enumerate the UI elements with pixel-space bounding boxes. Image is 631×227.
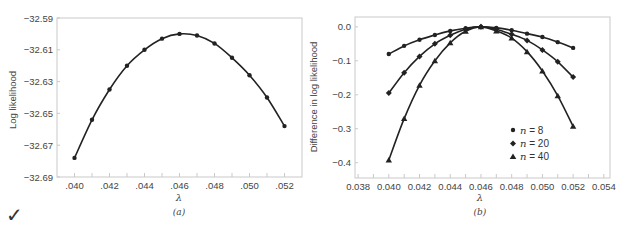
x-tick-label: 0.040 [377,181,401,192]
y-tick-label: −0.4 [332,157,351,168]
data-point [556,40,560,44]
x-axis-label-b: λ [476,192,483,203]
y-tick-label: −0.2 [332,89,351,100]
data-point [107,87,111,91]
data-point [282,124,286,128]
x-tick-label: 0.048 [500,181,524,192]
data-point [417,38,421,42]
x-tick-label: .046 [170,180,189,191]
x-axis-label-a: λ [175,192,182,203]
x-tick-label: .044 [135,180,154,191]
x-tick-label: 0.044 [438,181,462,192]
plot-frame-b [355,17,610,178]
y-tick-label: −32.59 [24,13,53,24]
legend: n = 8 n = 20 n = 40 [510,125,550,162]
data-point [571,46,575,50]
data-point [142,48,146,52]
y-tick-label: −32.61 [24,44,53,55]
data-point [525,31,529,35]
data-point [386,157,392,163]
data-point [416,82,422,88]
data-point [72,156,76,160]
legend-label: = 8 [526,125,543,136]
y-axis-label-b: Difference in log likelihood [308,42,319,153]
x-tick-label: 0.038 [346,181,370,192]
x-tick-label: .048 [205,180,224,191]
x-tick-label: .042 [100,180,119,191]
legend-label: = 40 [526,151,549,162]
series-n-20 [386,24,576,96]
svg-text:n = 20: n = 20 [520,138,549,149]
data-point [570,123,576,129]
legend-item-n20: n = 20 [510,138,549,149]
diamond-marker-icon [510,141,516,147]
checkmark-icon: ✓ [6,203,23,227]
x-tick-label: .050 [240,180,259,191]
svg-text:n = 8: n = 8 [520,125,544,136]
data-point [540,35,544,39]
chart-panel-b: 0.0−0.1−0.2−0.3−0.4 0.0380.0400.0420.044… [308,17,616,217]
data-point [387,52,391,56]
y-tick-label: −32.69 [24,172,53,183]
data-point [401,116,407,122]
y-axis-ticks-a: −32.59−32.61−32.63−32.65−32.67−32.69 [24,13,60,183]
x-tick-label: 0.054 [592,181,616,192]
svg-text:n = 40: n = 40 [520,151,549,162]
x-tick-label: 0.046 [469,181,493,192]
y-axis-ticks-b: 0.0−0.1−0.2−0.3−0.4 [332,21,358,168]
x-tick-label: .052 [275,180,294,191]
x-axis-ticks-a: .040.042.044.046.048.050.052 [65,173,294,191]
x-tick-label: 0.042 [408,181,432,192]
data-point [90,118,94,122]
data-point [212,41,216,45]
y-tick-label: −32.63 [24,76,53,87]
data-point [433,33,437,37]
data-point [555,93,561,99]
data-point [195,33,199,37]
y-tick-label: −0.1 [332,55,351,66]
circle-marker-icon [511,128,515,132]
chart-figure: −32.59−32.61−32.63−32.65−32.67−32.69 .04… [0,0,631,227]
panel-label-b: (b) [474,207,487,217]
y-tick-label: −32.67 [24,140,53,151]
data-point [230,56,234,60]
chart-panel-a: −32.59−32.61−32.63−32.65−32.67−32.69 .04… [7,13,302,218]
data-point [447,32,453,38]
data-point [524,37,530,43]
y-tick-label: −32.65 [24,108,53,119]
data-point [160,36,164,40]
x-axis-ticks-b: 0.0380.0400.0420.0440.0460.0480.0500.052… [346,174,616,192]
y-tick-label: −0.3 [332,123,351,134]
panel-label-a: (a) [173,207,186,217]
triangle-marker-icon [510,154,517,160]
x-tick-label: 0.050 [531,181,555,192]
series-a [72,32,286,160]
legend-item-n40: n = 40 [510,151,550,162]
data-point [402,44,406,48]
data-point [247,73,251,77]
y-axis-label-a: Log likelihood [7,71,18,129]
legend-label: = 20 [526,138,549,149]
y-tick-label: 0.0 [338,21,351,32]
data-point [125,63,129,67]
x-tick-label: .040 [65,180,84,191]
data-point [177,32,181,36]
x-tick-label: 0.052 [561,181,585,192]
series-loglikelihood [72,32,286,160]
data-point [265,95,269,99]
legend-item-n8: n = 8 [511,125,544,136]
